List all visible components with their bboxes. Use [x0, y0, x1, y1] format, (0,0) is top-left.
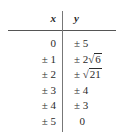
radicand: 21 [89, 68, 102, 79]
x-cell: ± 5 [14, 114, 56, 130]
y-column: ± 5 ± 2√6 ± √21 ± 4 ± 3 0 [74, 36, 122, 129]
x-cell: ± 2 [14, 67, 56, 83]
sqrt-expression: √6 [88, 52, 102, 68]
y-cell: ± √21 [74, 67, 122, 83]
y-cell: ± 4 [74, 83, 122, 99]
x-cell: ± 4 [14, 98, 56, 114]
y-cell: ± 5 [74, 36, 122, 52]
radicand: 6 [94, 53, 102, 64]
y-value: 0 [74, 115, 85, 127]
header-y: y [74, 12, 79, 24]
y-value: ± 3 [74, 99, 88, 111]
x-cell: ± 3 [14, 83, 56, 99]
x-cell: ± 1 [14, 52, 56, 68]
x-column: 0 ± 1 ± 2 ± 3 ± 4 ± 5 [14, 36, 56, 129]
header-x: x [36, 12, 56, 24]
y-value: ± 4 [74, 84, 88, 96]
y-cell: ± 3 [74, 98, 122, 114]
y-cell: 0 [74, 114, 122, 130]
column-divider [62, 11, 63, 132]
x-cell: 0 [14, 36, 56, 52]
y-cell: ± 2√6 [74, 52, 122, 68]
y-value: ± 2 [74, 53, 88, 65]
y-value: ± 5 [74, 37, 88, 49]
sqrt-expression: √21 [83, 67, 102, 83]
y-value: ± [74, 68, 80, 80]
